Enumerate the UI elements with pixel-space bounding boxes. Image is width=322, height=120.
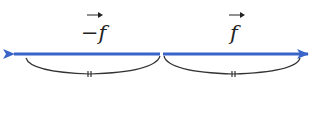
f-label: f [228, 12, 245, 45]
vector-diagram: −f f [0, 0, 322, 120]
left-brace [26, 56, 160, 77]
right-brace [164, 56, 300, 77]
svg-text:−f: −f [81, 21, 110, 45]
negative-f-label: −f [81, 12, 110, 45]
svg-text:f: f [228, 21, 241, 45]
